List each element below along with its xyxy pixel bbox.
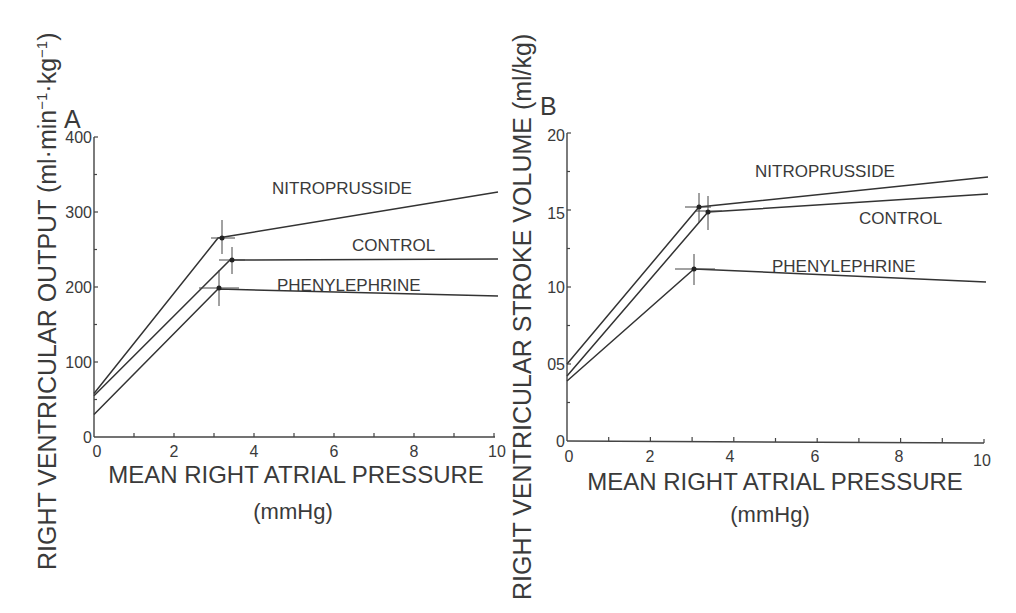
chart-b-y-axis-label: RIGHT VENTRICULAR STROKE VOLUME (ml/kg) [508,34,536,600]
svg-text:2: 2 [646,448,655,465]
svg-text:200: 200 [65,279,92,296]
svg-text:400: 400 [65,129,92,146]
chart-b-series [567,177,988,381]
svg-text:4: 4 [250,443,259,460]
svg-text:0: 0 [83,429,92,446]
svg-text:300: 300 [65,204,92,221]
label-control: CONTROL [859,209,942,228]
chart-b-y-tick-labels: 0 05 10 15 20 [547,127,565,450]
svg-text:15: 15 [547,205,565,222]
chart-b-x-tick-labels: 0 2 4 6 8 10 [565,448,991,469]
chart-a-x-tick-labels: 0 2 4 6 8 10 [93,443,506,460]
chart-a-line-phenylephrine [94,289,498,415]
svg-text:0: 0 [565,448,574,465]
chart-a-series-labels: NITROPRUSSIDE CONTROL PHENYLEPHRINE [272,179,435,295]
svg-text:0: 0 [93,443,102,460]
label-nitroprusside: NITROPRUSSIDE [755,162,895,181]
svg-text:10: 10 [973,452,991,469]
label-phenylephrine: PHENYLEPHRINE [277,276,421,295]
svg-text:10: 10 [547,279,565,296]
label-control: CONTROL [352,236,435,255]
svg-text:8: 8 [895,448,904,465]
svg-text:6: 6 [330,443,339,460]
chart-a-error-bars [199,220,245,306]
label-nitroprusside: NITROPRUSSIDE [272,179,412,198]
chart-a-series [94,192,498,415]
svg-text:05: 05 [547,356,565,373]
chart-a-x-axis-label: MEAN RIGHT ATRIAL PRESSURE [108,461,484,488]
panel-letter-b: B [540,92,557,120]
chart-a: RIGHT VENTRICULAR OUTPUT (ml·min−1·kg−1)… [33,33,506,571]
chart-b-x-axis-unit: (mmHg) [730,502,809,527]
svg-text:2: 2 [170,443,179,460]
chart-a-x-axis-unit: (mmHg) [253,499,332,524]
chart-a-y-tick-labels: 0 100 200 300 400 [65,129,92,446]
svg-text:20: 20 [547,127,565,144]
chart-b: RIGHT VENTRICULAR STROKE VOLUME (ml/kg) … [508,34,991,600]
chart-b-x-axis-label: MEAN RIGHT ATRIAL PRESSURE [587,468,963,495]
chart-a-y-axis-label: RIGHT VENTRICULAR OUTPUT (ml·min−1·kg−1) [33,33,61,571]
svg-text:8: 8 [410,443,419,460]
svg-text:6: 6 [811,448,820,465]
svg-text:100: 100 [65,354,92,371]
figure: RIGHT VENTRICULAR OUTPUT (ml·min−1·kg−1)… [0,0,1016,613]
svg-text:4: 4 [726,448,735,465]
label-phenylephrine: PHENYLEPHRINE [772,257,916,276]
svg-text:10: 10 [488,443,506,460]
chart-b-series-labels: NITROPRUSSIDE CONTROL PHENYLEPHRINE [755,162,942,276]
chart-b-line-phenylephrine [567,269,986,381]
